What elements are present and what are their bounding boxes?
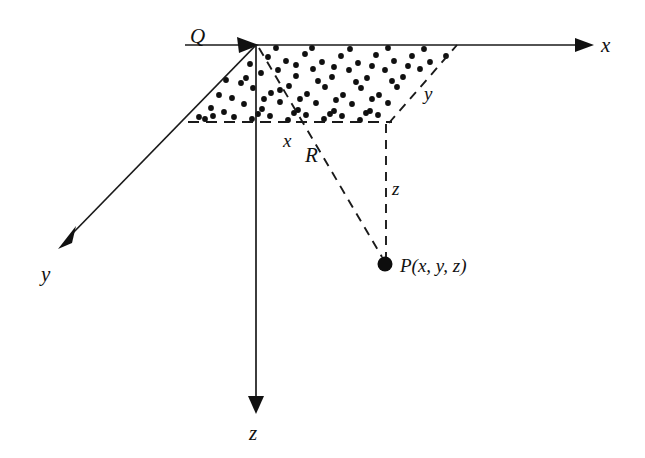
label-origin-Q: Q <box>190 24 205 48</box>
stipple-dot <box>331 64 337 70</box>
y-axis-arrowhead-icon <box>58 226 76 249</box>
stipple-dot <box>283 58 289 64</box>
stipple-dot <box>261 96 267 102</box>
stipple-dot <box>310 66 316 72</box>
stipple-dot <box>358 85 364 91</box>
stipple-dot <box>238 80 244 86</box>
diagram-canvas: Q x y z x y z R P(x, y, z) <box>0 0 645 458</box>
stipple-dot <box>382 67 388 73</box>
stipple-dot <box>322 84 328 90</box>
stipple-dot <box>394 84 400 90</box>
stipple-dot <box>427 59 433 65</box>
stipple-dot <box>355 60 361 66</box>
stipple-dot <box>241 101 247 107</box>
stipple-dot <box>247 61 253 67</box>
label-point-P: P(x, y, z) <box>399 255 466 277</box>
stippled-region <box>196 45 449 123</box>
stipple-dot <box>339 113 345 119</box>
stipple-dot <box>369 63 375 69</box>
label-axis-y: y <box>39 262 51 286</box>
stipple-dot <box>385 45 391 51</box>
stipple-dot <box>249 116 255 122</box>
stipple-dot <box>340 92 346 98</box>
stipple-dot <box>258 70 264 76</box>
stipple-dot <box>321 116 327 122</box>
stipple-dot <box>293 62 299 68</box>
stipple-dot <box>375 112 381 118</box>
stipple-dot <box>250 85 256 91</box>
stipple-dot <box>369 96 375 102</box>
label-axis-z: z <box>248 421 257 445</box>
stipple-dot <box>338 53 344 59</box>
stipple-dot <box>327 111 333 117</box>
stipple-dot <box>229 95 235 101</box>
stipple-dot <box>385 100 391 106</box>
axes-group <box>58 37 594 414</box>
stipple-dot <box>265 54 271 60</box>
stipple-dot <box>329 74 335 80</box>
stipple-dot <box>275 67 281 73</box>
stipple-dot <box>421 46 427 52</box>
stipple-dot <box>315 78 321 84</box>
label-edge-y: y <box>422 83 433 104</box>
stipple-dot <box>277 87 283 93</box>
stipple-dot <box>405 63 411 69</box>
label-radial-R: R <box>304 143 318 167</box>
stipple-dot <box>400 74 406 80</box>
point-p-marker <box>378 257 393 272</box>
coordinate-diagram: Q x y z x y z R P(x, y, z) <box>0 0 645 458</box>
stipple-dot <box>304 91 310 97</box>
stipple-dot <box>231 114 237 120</box>
stipple-dot <box>202 116 208 122</box>
stipple-dot <box>353 79 359 85</box>
stipple-dot <box>259 106 265 112</box>
stipple-dot <box>293 73 299 79</box>
stipple-dot <box>277 99 283 105</box>
stipple-dot <box>391 58 397 64</box>
stipple-dot <box>333 97 339 103</box>
stipple-dot <box>302 51 308 57</box>
stipple-dot <box>363 110 369 116</box>
y-axis-line <box>70 45 256 236</box>
stipple-dot <box>347 46 353 52</box>
stipple-dot <box>349 101 355 107</box>
stipple-dot <box>210 113 216 119</box>
stipple-dot <box>273 45 279 51</box>
dashed-right-slant-edge <box>389 45 457 123</box>
stipple-dot <box>216 92 222 98</box>
stipple-dot <box>319 59 325 65</box>
stipple-dot <box>286 83 292 89</box>
label-edge-z: z <box>391 178 400 199</box>
stipple-dot <box>268 90 274 96</box>
stipple-dot <box>417 66 423 72</box>
z-axis-arrowhead-icon <box>248 396 264 414</box>
dashed-radial-line-R <box>259 48 382 257</box>
stipple-dot <box>208 105 214 111</box>
x-axis-arrowhead-icon <box>575 38 594 52</box>
dashed-construction-lines <box>188 45 457 259</box>
stipple-dot <box>313 100 319 106</box>
stipple-dot <box>196 114 202 120</box>
stipple-dot <box>267 113 273 119</box>
stipple-dot <box>389 78 395 84</box>
stipple-dot <box>364 75 370 81</box>
stipple-dot <box>376 92 382 98</box>
stipple-dot <box>221 109 227 115</box>
stipple-dot <box>346 67 352 73</box>
stipple-dot <box>409 53 415 59</box>
stipple-dot <box>309 45 315 51</box>
stipple-dot <box>303 112 309 118</box>
label-axis-x: x <box>600 33 611 57</box>
label-edge-x: x <box>282 130 292 151</box>
stipple-dot <box>297 96 303 102</box>
stipple-dot <box>291 110 297 116</box>
stipple-dot <box>243 75 249 81</box>
stipple-dot <box>373 52 379 58</box>
